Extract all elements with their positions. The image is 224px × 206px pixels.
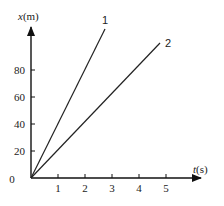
x-tick-label: 2 — [82, 182, 88, 194]
x-tick-label: 5 — [163, 182, 169, 194]
x-tick-label: 4 — [136, 182, 142, 194]
x-tick-label: 1 — [55, 182, 61, 194]
origin-label: 0 — [9, 173, 15, 185]
y-tick-label: 60 — [14, 91, 26, 103]
series-line-2 — [31, 43, 160, 178]
series-line-1 — [31, 29, 105, 178]
x-tick-label: 3 — [109, 182, 115, 194]
x-axis-title: t(s) — [193, 163, 208, 176]
position-time-chart: 1 2 3 4 5 20 40 60 80 0 x(m) t(s) 1 2 — [0, 0, 224, 206]
y-tick-label: 80 — [14, 64, 26, 76]
y-tick-label: 20 — [14, 145, 26, 157]
y-tick-label: 40 — [14, 118, 26, 130]
series-label-2: 2 — [165, 37, 171, 49]
y-axis-title: x(m) — [17, 10, 39, 23]
series-label-1: 1 — [102, 14, 108, 26]
